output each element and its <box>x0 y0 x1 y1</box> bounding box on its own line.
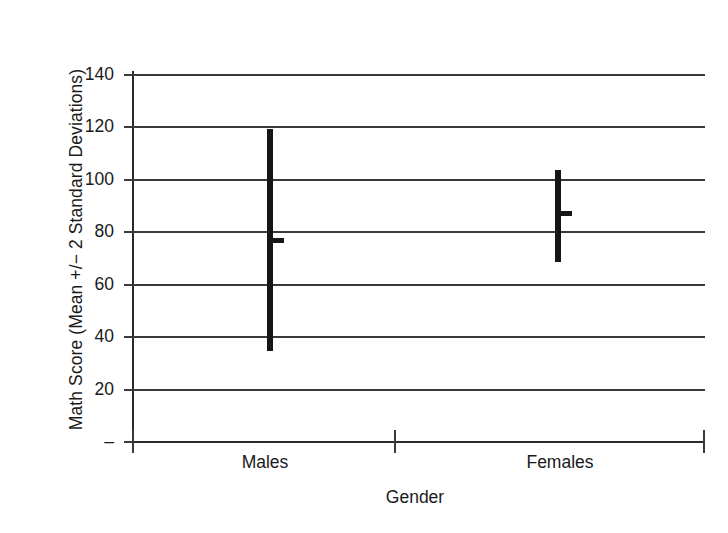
x-axis-title: Gender <box>335 487 495 508</box>
x-tick-right <box>703 430 705 453</box>
y-tick-140 <box>124 74 133 76</box>
y-tick-20 <box>124 389 133 391</box>
gridline-40 <box>132 336 705 338</box>
x-axis-label-males: Males <box>185 452 345 473</box>
y-tick-60 <box>124 284 133 286</box>
gridline-20 <box>132 389 705 391</box>
y-tick-label-40: 40 <box>66 326 114 347</box>
y-tick-120 <box>124 126 133 128</box>
x-tick-left <box>132 430 134 453</box>
x-tick-middle <box>394 430 396 453</box>
y-tick-label-80: 80 <box>66 221 114 242</box>
gridline-100 <box>132 179 705 181</box>
gridline-60 <box>132 284 705 286</box>
mean-marker-females <box>555 211 572 216</box>
gridline-140 <box>132 74 705 76</box>
y-tick-label-60: 60 <box>66 274 114 295</box>
gridline-80 <box>132 231 705 233</box>
range-bar-females <box>555 170 561 262</box>
y-tick-40 <box>124 336 133 338</box>
y-tick-80 <box>124 231 133 233</box>
y-tick-label-140: 140 <box>66 64 114 85</box>
y-tick-100 <box>124 179 133 181</box>
y-tick-label-120: 120 <box>66 116 114 137</box>
mean-marker-males <box>267 238 284 243</box>
y-axis-line <box>132 71 134 448</box>
math-score-by-gender-chart: Math Score (Mean +/− 2 Standard Deviatio… <box>0 0 728 533</box>
y-tick-label-100: 100 <box>66 169 114 190</box>
y-tick-label-20: 20 <box>66 379 114 400</box>
x-axis-label-females: Females <box>480 452 640 473</box>
gridline-120 <box>132 126 705 128</box>
x-axis-line <box>131 441 705 443</box>
y-tick-label-0: – <box>66 431 114 452</box>
